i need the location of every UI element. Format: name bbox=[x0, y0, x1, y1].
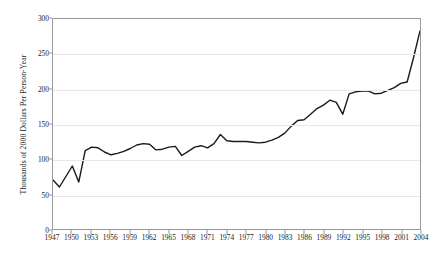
y-axis-tick-mark bbox=[48, 194, 52, 195]
gridline-horizontal bbox=[53, 125, 420, 126]
x-axis-tick-mark bbox=[90, 230, 91, 234]
x-axis-tick-mark bbox=[323, 230, 324, 234]
x-axis-tick-mark bbox=[343, 230, 344, 234]
gridline-horizontal bbox=[53, 196, 420, 197]
y-axis-tick-mark bbox=[48, 159, 52, 160]
x-axis-tick-mark bbox=[265, 230, 266, 234]
x-axis-tick-mark bbox=[226, 230, 227, 234]
x-axis-tick-label: 2001 bbox=[394, 233, 409, 242]
x-axis-tick-label: 1953 bbox=[83, 233, 98, 242]
x-axis-tick-mark bbox=[421, 230, 422, 234]
x-axis-tick-mark bbox=[149, 230, 150, 234]
x-axis-tick-label: 1980 bbox=[258, 233, 273, 242]
x-axis-tick-label: 1968 bbox=[181, 233, 196, 242]
y-axis-tick-mark bbox=[48, 18, 52, 19]
x-axis-tick-mark bbox=[304, 230, 305, 234]
x-axis-tick-label: 1977 bbox=[239, 233, 254, 242]
x-axis-tick-label: 1962 bbox=[142, 233, 157, 242]
x-axis-tick-label: 1986 bbox=[297, 233, 312, 242]
chart-figure: Thousands of 2000 Dollars Per Person-Yea… bbox=[0, 0, 437, 262]
x-axis-tick-label: 1947 bbox=[45, 233, 60, 242]
x-axis-tick-mark bbox=[382, 230, 383, 234]
gridline-horizontal bbox=[53, 90, 420, 91]
x-axis-tick-mark bbox=[401, 230, 402, 234]
x-axis-tick-mark bbox=[187, 230, 188, 234]
x-axis-tick-mark bbox=[110, 230, 111, 234]
x-axis-tick-label: 1956 bbox=[103, 233, 118, 242]
y-axis-title-text: Thousands of 2000 Dollars Per Person-Yea… bbox=[20, 54, 29, 194]
plot-area bbox=[52, 18, 421, 230]
x-axis-tick-label: 1965 bbox=[161, 233, 176, 242]
x-axis-tick-label: 1983 bbox=[278, 233, 293, 242]
x-axis-tick-label: 1989 bbox=[317, 233, 332, 242]
x-axis-tick-label: 2004 bbox=[414, 233, 429, 242]
x-axis-tick-label: 1998 bbox=[375, 233, 390, 242]
x-axis-tick-mark bbox=[129, 230, 130, 234]
x-axis-tick-label: 1959 bbox=[122, 233, 137, 242]
gridline-horizontal bbox=[53, 54, 420, 55]
gridline-horizontal bbox=[53, 160, 420, 161]
y-axis-tick-mark bbox=[48, 124, 52, 125]
y-axis-tick-mark bbox=[48, 53, 52, 54]
x-axis-tick-mark bbox=[246, 230, 247, 234]
y-axis-tick-mark bbox=[48, 88, 52, 89]
x-axis-tick-label: 1995 bbox=[355, 233, 370, 242]
y-axis-title: Thousands of 2000 Dollars Per Person-Yea… bbox=[17, 18, 31, 230]
x-axis-tick-mark bbox=[285, 230, 286, 234]
x-axis-tick-mark bbox=[207, 230, 208, 234]
x-axis-tick-label: 1974 bbox=[219, 233, 234, 242]
x-axis-tick-mark bbox=[168, 230, 169, 234]
data-series-line bbox=[53, 19, 420, 229]
x-axis-tick-mark bbox=[362, 230, 363, 234]
x-axis-tick-mark bbox=[52, 230, 53, 234]
x-axis-tick-label: 1971 bbox=[200, 233, 215, 242]
x-axis-tick-labels: 1947195019531956195919621965196819711974… bbox=[52, 233, 421, 247]
x-axis-tick-label: 1992 bbox=[336, 233, 351, 242]
y-axis-tick-labels: 050100150200250300 bbox=[31, 18, 49, 230]
x-axis-tick-label: 1950 bbox=[64, 233, 79, 242]
x-axis-tick-mark bbox=[71, 230, 72, 234]
